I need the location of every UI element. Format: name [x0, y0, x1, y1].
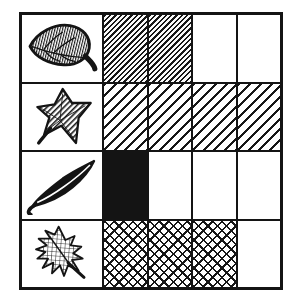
- leaf-label-cell-willow-leaf: [22, 152, 102, 219]
- leaf-label-cell-ovate-leaf: [22, 15, 102, 82]
- filled-cell-oak-leaf-3: [193, 221, 236, 288]
- oak-leaf-icon: [26, 224, 98, 284]
- willow-leaf-icon: [26, 155, 98, 215]
- empty-cell-ovate-leaf-4: [238, 15, 281, 82]
- empty-cell-willow-leaf-2: [149, 152, 192, 219]
- filled-cell-willow-leaf-1: [104, 152, 147, 219]
- maple-leaf-icon: [26, 87, 98, 147]
- filled-cell-maple-leaf-3: [193, 84, 236, 151]
- leaf-label-cell-maple-leaf: [22, 84, 102, 151]
- empty-cell-ovate-leaf-3: [193, 15, 236, 82]
- ovate-leaf-icon: [26, 18, 98, 78]
- leaf-label-cell-oak-leaf: [22, 221, 102, 288]
- filled-cell-maple-leaf-2: [149, 84, 192, 151]
- filled-cell-oak-leaf-1: [104, 221, 147, 288]
- filled-cell-maple-leaf-1: [104, 84, 147, 151]
- filled-cell-oak-leaf-2: [149, 221, 192, 288]
- pictograph-grid: [19, 12, 283, 290]
- filled-cell-ovate-leaf-2: [149, 15, 192, 82]
- filled-cell-ovate-leaf-1: [104, 15, 147, 82]
- empty-cell-oak-leaf-4: [238, 221, 281, 288]
- empty-cell-willow-leaf-4: [238, 152, 281, 219]
- filled-cell-maple-leaf-4: [238, 84, 281, 151]
- empty-cell-willow-leaf-3: [193, 152, 236, 219]
